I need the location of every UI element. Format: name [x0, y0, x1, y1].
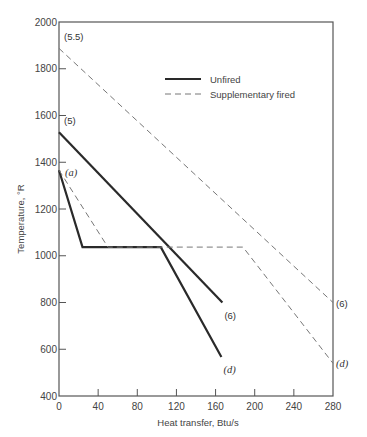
y-tick-label: 600	[40, 344, 57, 355]
y-tick-label: 400	[40, 391, 57, 402]
y-axis-title: Temperature, °R	[15, 184, 26, 253]
y-tick-label: 1400	[35, 157, 58, 168]
point-label: (d)	[336, 358, 349, 370]
point-label: (6)	[224, 310, 236, 321]
series-line-unfired	[59, 170, 221, 357]
y-tick-label: 1000	[35, 250, 58, 261]
x-tick-label: 80	[132, 401, 144, 412]
point-label: (5)	[64, 115, 76, 126]
point-label: (5.5)	[64, 31, 84, 42]
series-line-supplementary-fired	[59, 170, 333, 363]
y-tick-label: 1600	[35, 110, 58, 121]
point-label: (6)	[336, 298, 348, 309]
x-tick-label: 40	[93, 401, 105, 412]
legend-label: Supplementary fired	[210, 89, 295, 100]
x-tick-label: 120	[168, 401, 185, 412]
legend: UnfiredSupplementary fired	[165, 74, 295, 100]
point-label: (d)	[223, 364, 236, 376]
x-tick-label: 160	[207, 401, 224, 412]
x-tick-label: 280	[325, 401, 342, 412]
axes: 4006008001000120014001600180020000408012…	[35, 17, 342, 413]
legend-label: Unfired	[210, 74, 241, 85]
y-tick-label: 800	[40, 297, 57, 308]
y-tick-label: 1200	[35, 204, 58, 215]
x-axis-title: Heat transfer, Btu/s	[157, 417, 239, 428]
x-tick-label: 240	[286, 401, 303, 412]
x-tick-label: 200	[246, 401, 263, 412]
y-tick-label: 2000	[35, 17, 58, 28]
point-label: (a)	[65, 167, 78, 179]
x-tick-label: 0	[56, 401, 62, 412]
series-line-unfired	[59, 132, 222, 302]
y-tick-label: 1800	[35, 63, 58, 74]
point-labels: (5)(6)(a)(d)(5.5)(6)(d)	[64, 31, 349, 376]
chart: 4006008001000120014001600180020000408012…	[0, 0, 367, 437]
